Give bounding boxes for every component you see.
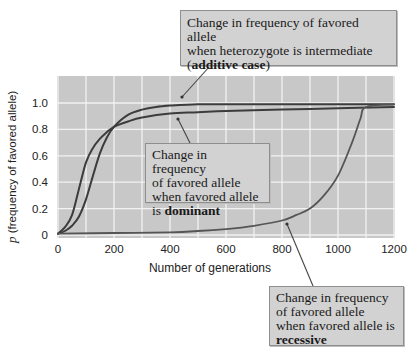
callout-dominant-prefix: is [152,203,164,218]
x-axis-ticks: 020040060080010001200 [55,243,407,255]
callout-additive-bold: additive case [192,57,266,72]
y-tick-label: 0.8 [32,123,48,135]
y-tick-label: 0.6 [32,150,48,162]
pointer-dominant-dot [176,117,179,120]
x-tick-label: 600 [216,243,235,255]
y-tick-label: 0.2 [32,203,48,215]
callout-dominant-line3: when favored allele [152,190,263,204]
y-tick-label: 1.0 [32,97,48,109]
callout-recessive-line1: Change in frequency [276,291,397,305]
y-axis-symbol: p [4,237,19,244]
callout-recessive: Change in frequency of favored allele wh… [269,286,404,346]
callout-dominant-bold: dominant [164,203,220,218]
y-tick-label: 0 [42,229,48,241]
x-tick-label: 200 [104,243,123,255]
callout-recessive-line2: of favored allele [276,305,397,319]
callout-additive-line3: (additive case) [187,58,390,72]
y-tick-label: 0.4 [32,176,49,188]
pointer-recessive-dot [285,222,288,225]
callout-additive-line1: Change in frequency of favored allele [187,16,390,44]
callout-additive-line2: when heterozygote is intermediate [187,44,390,58]
pointer-additive-dot [180,95,183,98]
callout-dominant-line4: is dominant [152,204,263,218]
y-axis-label: p (frequency of favored allele) [4,91,20,243]
x-axis-label: Number of generations [0,261,416,275]
x-tick-label: 0 [55,243,61,255]
callout-recessive-line3: when favored allele is [276,319,397,333]
callout-dominant-line2: of favored allele [152,176,263,190]
callout-recessive-bold: recessive [276,332,327,347]
paren-close: ) [265,57,270,72]
callout-dominant-line1: Change in frequency [152,148,263,176]
x-tick-label: 800 [272,243,291,255]
x-tick-label: 1000 [325,243,351,255]
callout-recessive-line4: recessive [276,333,397,347]
callout-additive: Change in frequency of favored allele wh… [180,10,397,66]
x-tick-label: 400 [160,243,179,255]
callout-dominant: Change in frequency of favored allele wh… [145,143,270,203]
y-axis-label-text: (frequency of favored allele) [6,91,18,237]
y-axis-ticks: 00.20.40.60.81.0 [32,97,49,241]
x-tick-label: 1200 [381,243,407,255]
